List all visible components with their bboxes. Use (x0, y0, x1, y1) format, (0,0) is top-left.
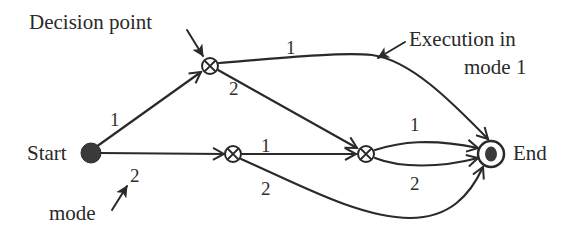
start-node (81, 143, 101, 163)
edge-d1-d3 (218, 70, 357, 148)
execution-pointer-arrow (378, 42, 405, 58)
edge-label-start-d1: 1 (110, 110, 120, 129)
execution-label-line1: Execution in (409, 29, 516, 50)
mode-pointer-arrow (112, 186, 127, 210)
edge-label-start-d2: 2 (130, 166, 140, 185)
edge-label-d2-end: 2 (261, 179, 271, 198)
edge-label-d1-end: 1 (286, 38, 296, 57)
mode-execution-diagram: Decision point Execution in mode 1 Start… (0, 0, 581, 236)
edge-d3-end-bottom (375, 158, 478, 166)
execution-label-line2: mode 1 (464, 57, 526, 78)
decision-point-d3 (358, 146, 374, 162)
end-label: End (513, 143, 547, 164)
end-node (478, 141, 504, 167)
edge-label-d3-end-top: 1 (410, 115, 420, 134)
edge-d2-end (241, 159, 483, 218)
edge-start-d2 (100, 153, 224, 154)
edge-label-d3-end-bottom: 2 (410, 174, 420, 193)
decision-point-label: Decision point (29, 12, 152, 33)
start-label: Start (27, 143, 67, 164)
edge-d1-end (219, 54, 488, 139)
decision-point-d2 (225, 146, 241, 162)
edge-label-d1-d3: 2 (229, 79, 239, 98)
edge-label-d2-d3: 1 (261, 136, 271, 155)
decision-point-d1 (202, 58, 218, 74)
decision-point-pointer-arrow (187, 30, 203, 56)
mode-label: mode (49, 203, 96, 224)
edge-d3-end-top (375, 142, 478, 150)
